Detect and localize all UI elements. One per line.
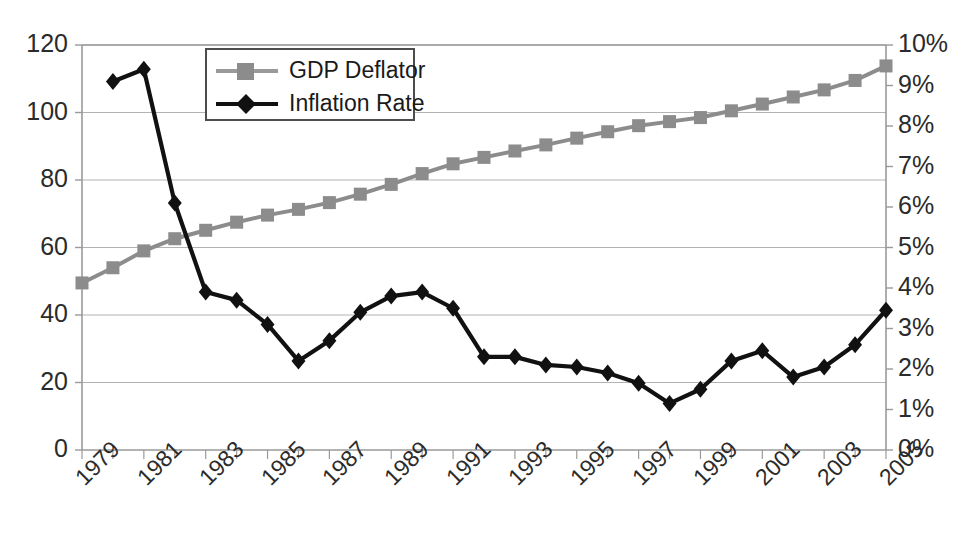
y-left-tick-label: 60 (40, 234, 68, 259)
y-right-tick-label: 8% (898, 112, 934, 137)
legend: GDP Deflator Inflation Rate (205, 48, 415, 121)
legend-item-inflation-rate: Inflation Rate (207, 86, 413, 120)
y-left-tick-label: 80 (40, 166, 68, 191)
y-left-tick-label: 0 (54, 436, 68, 461)
gridlines (82, 45, 886, 383)
y-right-tick-label: 3% (898, 315, 934, 340)
y-right-tick-label: 5% (898, 234, 934, 259)
y-right-tick-label: 7% (898, 153, 934, 178)
series-gdp-deflator (76, 59, 893, 289)
y-right-tick-label: 4% (898, 274, 934, 299)
left-axis-ticks (75, 45, 82, 450)
legend-item-gdp-deflator: GDP Deflator (207, 53, 413, 87)
y-left-tick-label: 100 (26, 99, 68, 124)
legend-marker-square-icon (216, 58, 278, 82)
legend-label-gdp-deflator: GDP Deflator (289, 57, 425, 84)
y-right-tick-label: 1% (898, 396, 934, 421)
y-left-tick-label: 40 (40, 301, 68, 326)
right-axis-ticks (886, 45, 893, 450)
y-left-tick-label: 120 (26, 31, 68, 56)
legend-marker-diamond-icon (216, 91, 278, 115)
chart-container: GDP Deflator Inflation Rate 020406080100… (0, 0, 964, 537)
y-right-tick-label: 2% (898, 355, 934, 380)
legend-label-inflation-rate: Inflation Rate (289, 90, 425, 117)
y-right-tick-label: 6% (898, 193, 934, 218)
y-left-tick-label: 20 (40, 369, 68, 394)
y-right-tick-label: 10% (898, 31, 948, 56)
y-right-tick-label: 9% (898, 72, 934, 97)
